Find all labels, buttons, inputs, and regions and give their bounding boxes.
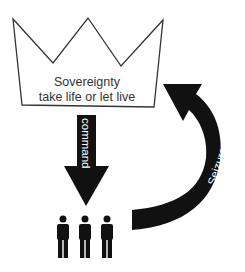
crown-subtitle: take life or let live: [39, 90, 136, 104]
person-icon: [101, 216, 113, 259]
crown-title: Sovereignty: [54, 75, 121, 89]
person-icon: [79, 216, 91, 259]
sovereignty-diagram: Sovereignty take life or let live comman…: [0, 0, 245, 272]
person-icon: [57, 216, 69, 259]
command-label: command: [80, 118, 92, 169]
people-group: [57, 216, 113, 259]
